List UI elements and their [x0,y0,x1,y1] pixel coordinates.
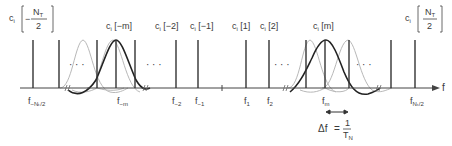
delta-f-lhs: Δf [318,124,327,134]
label-c-N-half-c: ci [405,14,411,24]
label-f-N-half: fNₜ/2 [410,97,424,107]
label-c-1: ci [1] [232,22,250,32]
label-c-2: ci [2] [260,22,278,32]
label-c-neg-N-half-num: NT [33,8,43,18]
ellipsis-mid-right: · · · [274,60,290,70]
delta-f-numerator: 1 [345,119,350,128]
label-f-2: f2 [267,97,273,107]
label-f-1: f1 [244,97,250,107]
ellipsis-mid-left: · · · [146,60,162,70]
label-c-neg-2: ci [−2] [155,22,179,32]
delta-f-denominator: TN [343,131,353,141]
label-c-neg-N-half-sign: − [25,15,30,24]
label-f-neg-m: f−m [117,97,128,107]
delta-f-equals: = [334,124,340,134]
axis-label-f: f [442,83,445,93]
label-c-neg-m: ci [−m] [106,22,132,32]
axis-arrow-icon [432,85,440,91]
label-f-neg-2: f−2 [172,97,181,107]
label-f-neg-1: f−1 [195,97,204,107]
label-c-N-half-num: NT [425,8,435,18]
label-c-neg-1: ci [−1] [190,22,214,32]
label-c-neg-N-half-c: ci [9,14,15,24]
label-f-neg-N-half: f−Nₜ/2 [28,97,45,107]
ellipsis-left: · · · [69,60,85,70]
label-c-m: ci [m] [313,22,334,32]
ofdm-spectrum-diagram: ci − NT 2 ci [−m] ci [−2] ci [−1] ci [1]… [0,0,452,146]
spectrum-svg [0,0,452,146]
label-c-neg-N-half-den: 2 [36,22,41,31]
ellipsis-right: · · · [356,60,372,70]
label-c-N-half-den: 2 [427,22,432,31]
delta-f-arrow [326,110,348,114]
faint-sinc-curves-right [288,40,392,92]
label-f-m: fm [322,97,330,107]
